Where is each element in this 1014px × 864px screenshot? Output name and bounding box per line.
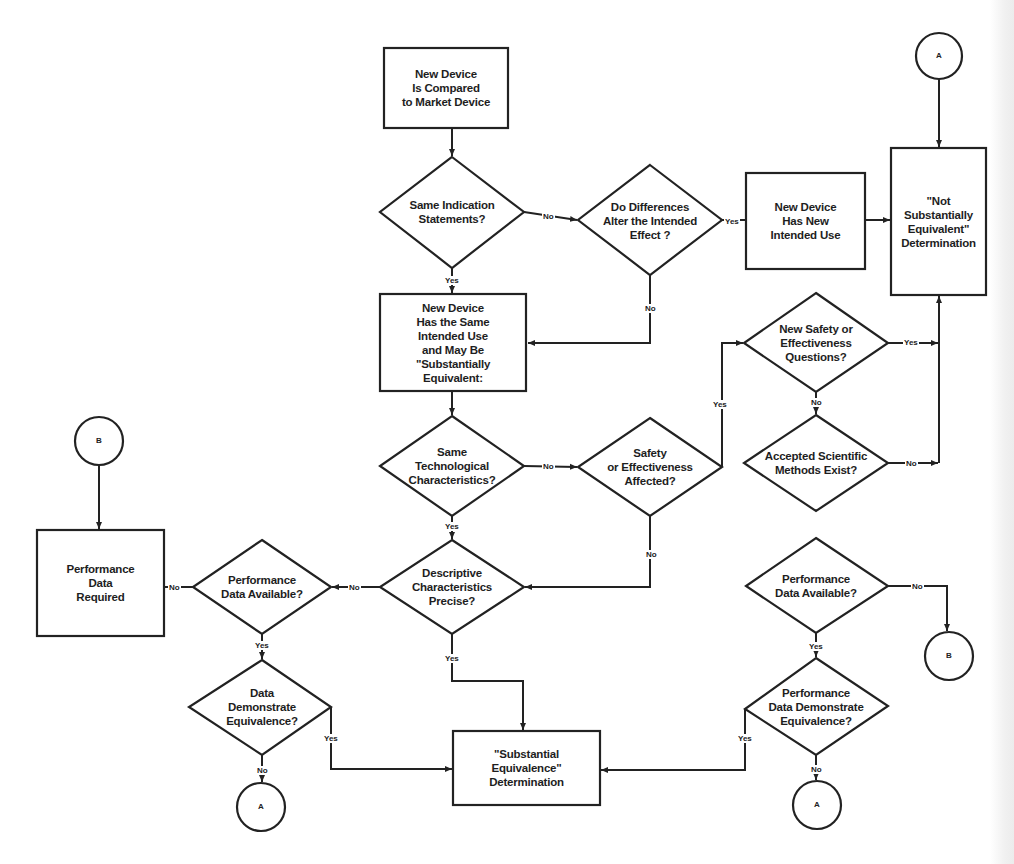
edge-label-perf-left-yes: Yes	[254, 641, 270, 650]
edge-label-new-safety-yes: Yes	[903, 338, 919, 347]
perf-available-right-label: Performance Data Available?	[752, 565, 880, 607]
data-demonstrate-label: Data Demonstrate Equivalence?	[198, 682, 326, 732]
edge-label-differences-yes: Yes	[724, 217, 740, 226]
edge-label-descriptive-yes: Yes	[444, 654, 460, 663]
edge-label-perf-right-no: No	[911, 582, 924, 591]
edge-label-differences-no: No	[644, 304, 657, 313]
same-indication-label: Same Indication Statements?	[390, 190, 514, 234]
edge-label-safety-affected-no: No	[645, 550, 658, 559]
accepted-methods-label: Accepted Scientific Methods Exist?	[746, 442, 886, 484]
edge-label-safety-affected-yes: Yes	[712, 400, 728, 409]
same-intended-use-label: New Device Has the Same Intended Use and…	[380, 294, 526, 391]
edge-label-perf-left-no: No	[168, 583, 181, 592]
edge-label-descriptive-no: No	[348, 583, 361, 592]
edge-label-data-demo-no: No	[256, 766, 269, 775]
connector-b-left-letter: B	[89, 436, 109, 446]
descriptive-label: Descriptive Characteristics Precise?	[386, 562, 518, 612]
differences-label: Do Differences Alter the Intended Effect…	[586, 196, 714, 246]
safety-affected-label: Safety or Effectiveness Affected?	[583, 442, 717, 492]
connector-a-top-letter: A	[929, 51, 949, 61]
edge-label-accepted-methods-no: No	[905, 459, 918, 468]
same-tech-label: Same Technological Characteristics?	[385, 441, 519, 491]
connector-b-right-letter: B	[939, 651, 959, 661]
edge-label-same-tech-yes: Yes	[444, 522, 460, 531]
new-intended-use-label: New Device Has New Intended Use	[746, 173, 865, 269]
edge-label-perf-demo-yes: Yes	[737, 734, 753, 743]
edge-label-same-indication-yes: Yes	[444, 276, 460, 285]
edge-label-perf-right-yes: Yes	[808, 642, 824, 651]
connector-a-bottom-left-letter: A	[251, 802, 271, 812]
perf-demonstrate-label: Performance Data Demonstrate Equivalence…	[746, 682, 886, 732]
perf-available-left-label: Performance Data Available?	[198, 566, 326, 608]
edge-label-same-tech-no: No	[542, 462, 555, 471]
connector-a-bottom-right-letter: A	[807, 800, 827, 810]
edge-label-data-demo-yes: Yes	[323, 734, 339, 743]
edge-label-perf-demo-no: No	[810, 765, 823, 774]
new-safety-label: New Safety or Effectiveness Questions?	[752, 318, 880, 368]
se-label: "Substantial Equivalence" Determination	[453, 731, 600, 805]
compare-box-label: New Device Is Compared to Market Device	[384, 48, 508, 128]
perf-required-label: Performance Data Required	[37, 530, 164, 636]
flowchart-canvas: New Device Is Compared to Market Device …	[0, 0, 1014, 864]
edge-label-same-indication-no: No	[542, 212, 555, 221]
edge-label-new-safety-no: No	[810, 398, 823, 407]
not-se-label: "Not Substantially Equivalent" Determina…	[891, 148, 986, 295]
